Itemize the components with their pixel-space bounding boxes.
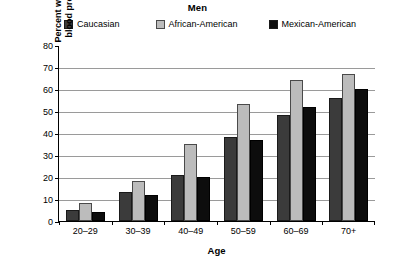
- bar[interactable]: [224, 137, 237, 221]
- x-tick-mark: [374, 221, 375, 225]
- bar[interactable]: [171, 175, 184, 221]
- x-axis-title: Age: [58, 245, 375, 256]
- bar[interactable]: [66, 210, 79, 221]
- bar-groups: 20–2930–3940–4950–5960–6970+: [59, 46, 375, 221]
- bar-group-bars: [164, 46, 217, 221]
- bar[interactable]: [119, 192, 132, 221]
- bar-group-bars: [217, 46, 270, 221]
- x-tick-mark: [322, 221, 323, 225]
- x-tick-label: 60–69: [270, 226, 323, 236]
- bar-group: 50–59: [217, 46, 270, 221]
- bar-group: 30–39: [112, 46, 165, 221]
- plot-area: Percent with highblood pressure 01020304…: [58, 46, 375, 222]
- x-tick-mark: [217, 221, 218, 225]
- legend-label: Caucasian: [77, 19, 120, 29]
- x-tick-mark: [112, 221, 113, 225]
- x-tick-label: 30–39: [112, 226, 165, 236]
- legend-item[interactable]: Mexican-American: [269, 19, 357, 29]
- x-tick-mark: [270, 221, 271, 225]
- bar-group-bars: [322, 46, 375, 221]
- legend-swatch-icon: [156, 20, 165, 29]
- bar[interactable]: [250, 140, 263, 221]
- y-tick-label: 20: [31, 174, 53, 183]
- x-tick-label: 20–29: [59, 226, 112, 236]
- bar[interactable]: [303, 107, 316, 221]
- legend-swatch-icon: [269, 20, 278, 29]
- y-tick-label: 30: [31, 152, 53, 161]
- bar[interactable]: [277, 115, 290, 221]
- x-tick-label: 40–49: [164, 226, 217, 236]
- y-tick-label: 60: [31, 86, 53, 95]
- bar-chart: Men CaucasianAfrican-AmericanMexican-Ame…: [0, 0, 395, 272]
- x-tick-label: 70+: [322, 226, 375, 236]
- bar[interactable]: [355, 89, 368, 221]
- bar[interactable]: [237, 104, 250, 221]
- bar[interactable]: [184, 144, 197, 221]
- bar-group: 40–49: [164, 46, 217, 221]
- bar-group-bars: [59, 46, 112, 221]
- x-tick-mark: [164, 221, 165, 225]
- bar[interactable]: [92, 212, 105, 221]
- bar[interactable]: [290, 80, 303, 221]
- y-tick-label: 70: [31, 64, 53, 73]
- legend-label: African-American: [169, 19, 238, 29]
- bar-group-bars: [112, 46, 165, 221]
- bar[interactable]: [197, 177, 210, 221]
- y-tick-label: 50: [31, 108, 53, 117]
- bar-group: 70+: [322, 46, 375, 221]
- y-tick-label: 40: [31, 130, 53, 139]
- x-tick-label: 50–59: [217, 226, 270, 236]
- bar[interactable]: [145, 195, 158, 221]
- legend-label: Mexican-American: [282, 19, 357, 29]
- y-tick-label: 10: [31, 196, 53, 205]
- x-tick-mark: [59, 221, 60, 225]
- legend-item[interactable]: African-American: [156, 19, 238, 29]
- bar[interactable]: [342, 74, 355, 221]
- y-tick-label: 0: [31, 218, 53, 227]
- y-tick-label: 80: [31, 42, 53, 51]
- chart-legend: CaucasianAfrican-AmericanMexican-America…: [58, 16, 395, 32]
- bar[interactable]: [79, 203, 92, 221]
- bar-group: 20–29: [59, 46, 112, 221]
- bar[interactable]: [329, 98, 342, 221]
- bar-group: 60–69: [270, 46, 323, 221]
- bar-group-bars: [270, 46, 323, 221]
- bar[interactable]: [132, 181, 145, 221]
